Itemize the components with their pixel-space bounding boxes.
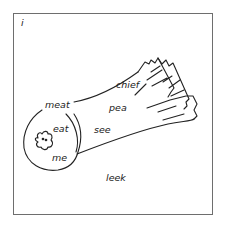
word-see: see: [94, 125, 111, 135]
word-leek: leek: [106, 173, 126, 183]
leek-illustration: [0, 0, 228, 231]
pea-creature-outline: [35, 131, 52, 149]
word-pea: pea: [109, 103, 127, 113]
leek-leaf-1: [138, 58, 174, 97]
word-chief: chief: [116, 80, 139, 90]
word-me: me: [52, 153, 67, 163]
word-meat: meat: [45, 100, 70, 110]
word-eat: eat: [53, 124, 68, 134]
corner-letter: i: [21, 18, 24, 28]
